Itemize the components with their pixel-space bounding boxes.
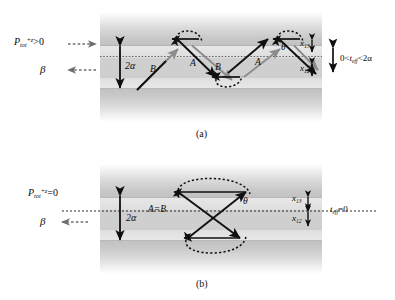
ray-up-b [188,192,246,238]
power-label-b: Ptot+z=0 [28,188,58,199]
panel-b: Ptot+z=0 β 2α A=B θ x13 x12 teff=0 (b) [0,150,395,300]
ray-label-ab-b: A=B [148,205,166,215]
x13-label-a: x13 [300,39,310,49]
x12-label-a: x12 [300,64,310,74]
ray-label-b2-a: B [215,63,221,73]
ray-b-up-2-a [244,49,280,77]
core-thickness-label-a: 2α [125,61,135,71]
x12-label-b: x12 [292,214,302,224]
panel-a: Ptot+z>0 β 2α B A B A θ x13 x12 0<teff<2… [0,0,395,150]
ray-down-b [178,192,240,238]
ray-label-a2-a: A [255,58,261,68]
power-label-a: Ptot+z>0 [14,37,44,48]
teff-label-b: teff=0 [330,205,348,215]
caption-a: (a) [196,128,207,139]
teff-label-a: 0<teff<2α [340,54,372,64]
beta-label-b: β [40,216,45,227]
x13-label-b: x13 [292,194,302,204]
ray-label-a1-a: A [190,59,196,69]
ray-a-down-1-a [192,46,232,81]
theta-label-a: θ [281,43,286,53]
caption-b: (b) [196,278,208,289]
theta-label-b: θ [243,197,248,207]
core-thickness-label-b: 2α [126,213,136,223]
ray-label-b1-a: B [150,65,156,75]
beta-label-a: β [40,64,45,75]
ray-black-down-1-a [177,39,216,77]
ray-black-up-2-a [228,39,268,73]
gh-loop-top-1-a [176,31,202,42]
figure-root: Ptot+z>0 β 2α B A B A θ x13 x12 0<teff<2… [0,0,395,300]
